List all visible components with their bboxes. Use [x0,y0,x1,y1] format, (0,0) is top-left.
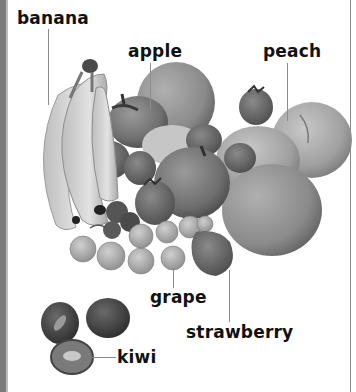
leader-banana [48,29,49,105]
label-peach: peach [263,43,321,60]
leader-grape [173,268,174,288]
label-strawberry: strawberry [186,324,293,341]
strawberry-bottom [192,231,233,276]
label-banana: banana [17,10,89,27]
leader-kiwi [92,357,116,358]
banana-bunch [43,59,118,230]
leader-peach [287,63,288,121]
strawberry-top-right [239,86,273,125]
leader-apple [150,63,151,109]
large-round-fruit [222,164,322,256]
leader-strawberry [229,270,230,322]
fruit-illustration: banana apple peach grape strawberry kiwi [0,0,356,392]
label-grape: grape [150,289,207,306]
label-kiwi: kiwi [117,349,156,366]
label-apple: apple [128,43,182,60]
